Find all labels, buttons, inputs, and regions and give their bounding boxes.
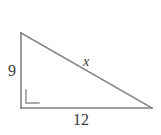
triangle-figure: 9 12 x [0,0,161,135]
horizontal-leg-label: 12 [73,112,89,128]
vertical-leg-label: 9 [8,63,16,79]
hypotenuse-label: x [83,55,89,69]
hypotenuse-line [21,33,152,108]
right-angle-marker-icon [26,90,39,103]
